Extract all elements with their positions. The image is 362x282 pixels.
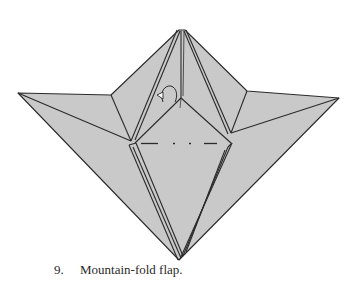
step-caption: 9.Mountain-fold flap. bbox=[54, 262, 183, 278]
model-outline bbox=[18, 30, 339, 260]
origami-diagram bbox=[0, 0, 362, 282]
paper-model bbox=[18, 30, 339, 260]
step-instruction: Mountain-fold flap. bbox=[80, 262, 183, 277]
step-number: 9. bbox=[54, 262, 80, 278]
